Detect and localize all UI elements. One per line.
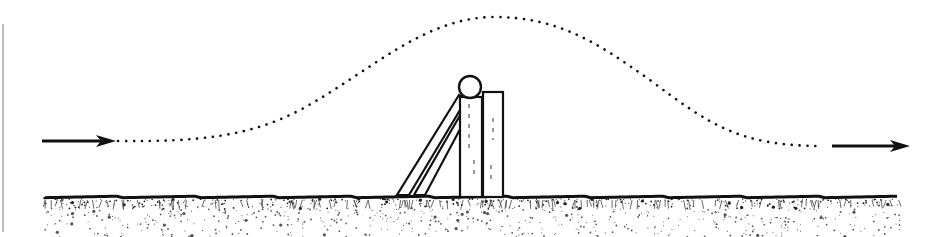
trajectory-diagram xyxy=(0,0,944,237)
post-right xyxy=(483,92,503,197)
obstacle xyxy=(397,76,503,197)
slanted-board-inner xyxy=(414,105,466,195)
incoming-arrow-icon xyxy=(42,135,116,147)
ball xyxy=(459,76,481,98)
post-left xyxy=(460,97,482,197)
ground-texture xyxy=(43,197,901,237)
outgoing-arrow-icon xyxy=(832,140,910,152)
